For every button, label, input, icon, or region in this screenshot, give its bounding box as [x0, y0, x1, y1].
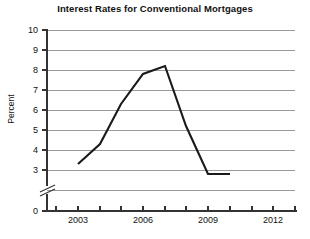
y-tick-label-4: 4 — [16, 146, 38, 155]
x-tick-label-2012: 2012 — [253, 216, 293, 225]
plot-area — [0, 0, 310, 239]
y-tick-label-0: 0 — [16, 207, 38, 216]
y-tick-label-3: 3 — [16, 166, 38, 175]
x-tick-label-2009: 2009 — [188, 216, 228, 225]
y-tick-label-5: 5 — [16, 126, 38, 135]
y-axis-ticks — [42, 30, 47, 211]
x-tick-label-2003: 2003 — [58, 216, 98, 225]
x-tick-label-2006: 2006 — [123, 216, 163, 225]
y-tick-label-10: 10 — [16, 26, 38, 35]
chart-container: Interest Rates for Conventional Mortgage… — [0, 0, 310, 239]
y-tick-label-8: 8 — [16, 66, 38, 75]
data-line-interest-rate — [78, 66, 230, 174]
y-tick-label-6: 6 — [16, 106, 38, 115]
gridlines — [47, 30, 295, 190]
y-tick-label-9: 9 — [16, 46, 38, 55]
y-tick-label-7: 7 — [16, 86, 38, 95]
x-axis-ticks — [56, 206, 295, 211]
